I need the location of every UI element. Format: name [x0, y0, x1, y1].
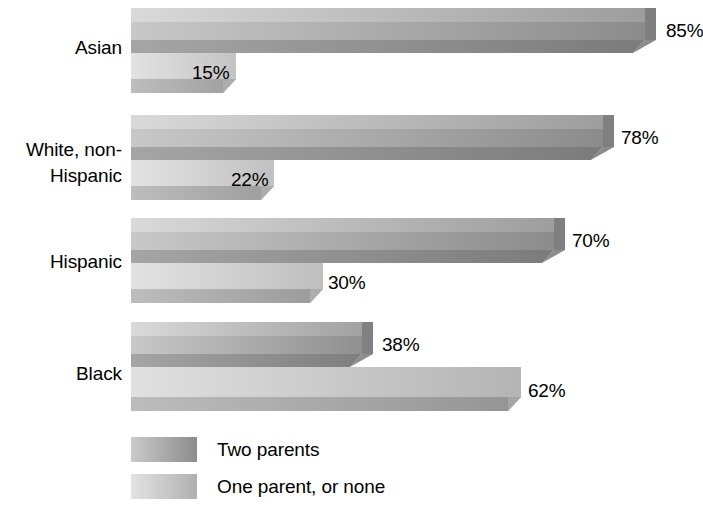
bar-shape-hispanic-one-parent [131, 263, 323, 304]
bar-group-hispanic: Hispanic [0, 212, 697, 312]
value-label-asian-one-parent: 15% [192, 63, 229, 82]
category-label-black: Black [0, 362, 122, 385]
category-label-asian-line1: Asian [75, 37, 122, 58]
bar-shape-black-one-parent [131, 367, 521, 412]
value-label-white-one-parent: 22% [231, 170, 268, 189]
bar-shape-black-two-parents [131, 322, 373, 368]
bar-hispanic-one-parent[interactable] [131, 263, 323, 304]
value-label-hispanic-one-parent: 30% [328, 273, 365, 292]
category-label-white-line1: White, non- [0, 137, 122, 163]
bar-black-one-parent[interactable] [131, 367, 521, 412]
category-label-black-line1: Black [76, 363, 122, 384]
bar-shape-asian-two-parents [131, 8, 656, 54]
bar-white-two-parents[interactable] [131, 115, 614, 161]
legend-swatch-two-parents-icon [131, 437, 197, 462]
value-label-white-two-parents: 78% [621, 128, 658, 147]
category-label-white-non-hispanic: White, non- Hispanic [0, 137, 122, 189]
value-label-asian-two-parents: 85% [666, 21, 703, 40]
category-label-white-line2: Hispanic [0, 163, 122, 189]
bar-group-asian: Asian [0, 0, 697, 105]
category-label-hispanic: Hispanic [0, 250, 122, 273]
bar-group-white-non-hispanic: White, non- Hispanic [0, 110, 697, 210]
value-label-black-two-parents: 38% [382, 335, 419, 354]
value-label-hispanic-two-parents: 70% [572, 231, 609, 250]
bar-asian-two-parents[interactable] [131, 8, 656, 54]
category-label-hispanic-line1: Hispanic [50, 251, 122, 272]
value-label-black-one-parent: 62% [528, 381, 565, 400]
bar-shape-hispanic-two-parents [131, 218, 565, 264]
bar-group-black: Black [0, 316, 697, 421]
bar-shape-white-two-parents [131, 115, 614, 161]
legend-label-one-parent: One parent, or none [217, 475, 385, 498]
legend-label-two-parents: Two parents [217, 438, 319, 461]
bar-hispanic-two-parents[interactable] [131, 218, 565, 264]
bar-black-two-parents[interactable] [131, 322, 373, 368]
legend-swatch-one-parent-icon [131, 474, 197, 499]
category-label-asian: Asian [0, 36, 122, 59]
